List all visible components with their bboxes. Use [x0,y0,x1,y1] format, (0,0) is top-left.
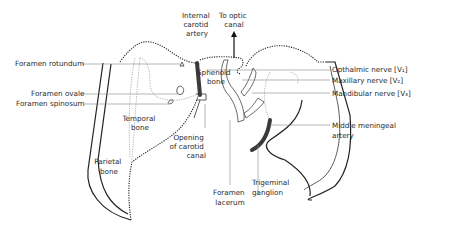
label-foramen-spinosum: Foramen spinosum [16,99,84,108]
label-mandibular-nerve: Mandibular nerve [V₃] [332,89,411,98]
label-to-optic-canal: To optic canal [218,11,249,29]
label-internal-carotid: Internal carotid artery [182,11,212,38]
label-middle-meningeal-artery: Middle meningeal artery [332,121,398,140]
label-foramen-rotundum: Foramen rotundum [15,59,84,68]
optic-canal-arrow [231,31,237,58]
label-temporal-bone: Temporal bone [121,114,157,132]
label-opening-carotid-canal: Opening of carotid canal [170,133,206,160]
labels: Foramen rotundum Foramen ovale Foramen s… [15,11,411,207]
cranial-fossa-diagram: Foramen rotundum Foramen ovale Foramen s… [0,0,449,229]
label-opthalmic-nerve: Opthalmic nerve [V₁] [332,65,408,74]
label-trigeminal-ganglion: Trigeminal ganglion [251,178,292,197]
label-maxillary-nerve: Maxillary nerve [V₂] [332,76,403,85]
label-foramen-ovale: Foramen ovale [31,89,85,98]
middle-meningeal-artery [252,120,270,150]
label-foramen-lacerum: Foramen lacerum [213,188,247,207]
